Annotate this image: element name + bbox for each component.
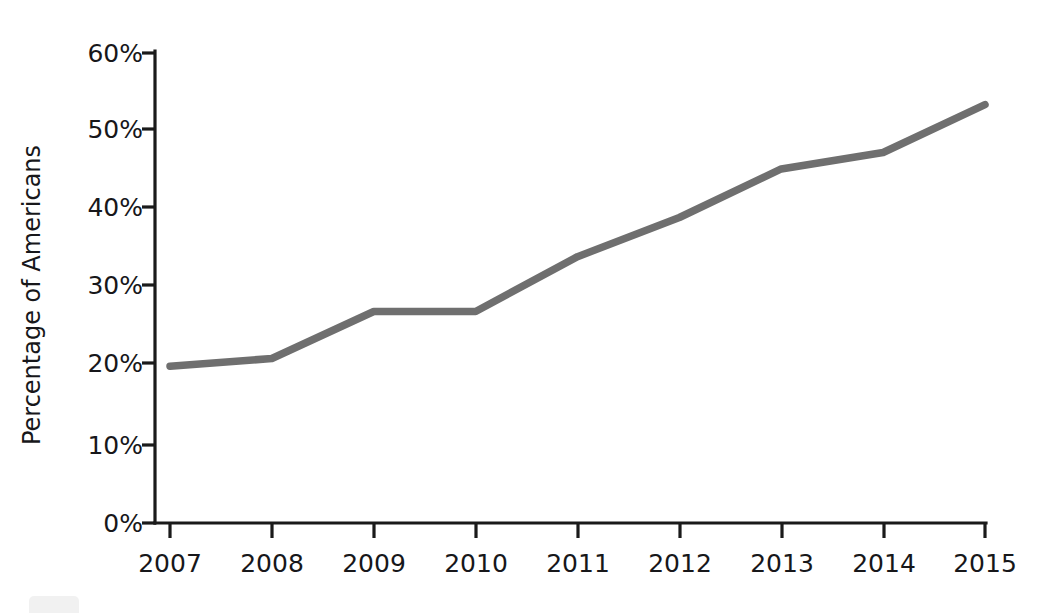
page-corner-artifact <box>29 596 79 613</box>
chart-canvas: Percentage of Americans 60% 50% 40% 30% … <box>0 0 1053 613</box>
x-tick-label-2013: 2013 <box>750 549 814 578</box>
line-chart-figure: Percentage of Americans 60% 50% 40% 30% … <box>0 0 1053 613</box>
x-tick-label-2014: 2014 <box>852 549 916 578</box>
x-tick-label-2011: 2011 <box>546 549 610 578</box>
y-tick-label-20: 20% <box>87 349 143 378</box>
y-tick-label-50: 50% <box>87 115 143 144</box>
data-series-line <box>170 105 985 367</box>
x-tick-label-2008: 2008 <box>240 549 304 578</box>
y-tick-label-10: 10% <box>87 431 143 460</box>
x-tick-label-2010: 2010 <box>444 549 508 578</box>
y-tick-label-40: 40% <box>87 193 143 222</box>
y-axis-title: Percentage of Americans <box>18 145 46 445</box>
y-tick-label-30: 30% <box>87 271 143 300</box>
x-tick-label-2009: 2009 <box>342 549 406 578</box>
y-tick-label-60: 60% <box>87 39 143 68</box>
x-tick-label-2015: 2015 <box>953 549 1017 578</box>
y-tick-label-0: 0% <box>103 509 143 538</box>
x-tick-label-2007: 2007 <box>138 549 202 578</box>
x-tick-label-2012: 2012 <box>648 549 712 578</box>
